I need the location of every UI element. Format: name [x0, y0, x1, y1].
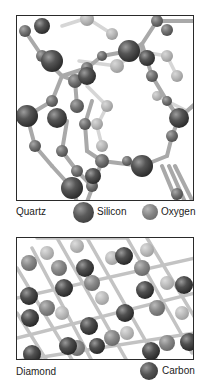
silicon-atom-icon [73, 202, 94, 223]
diamond-structure-panel [16, 237, 194, 360]
quartz-label: Quartz [16, 206, 46, 217]
diamond-label: Diamond [16, 366, 56, 377]
carbon-atom-icon [140, 362, 158, 380]
silicon-legend-label: Silicon [97, 206, 126, 217]
quartz-structure-panel [16, 15, 194, 201]
carbon-legend-label: Carbon [162, 365, 195, 376]
oxygen-legend-label: Oxygen [161, 206, 195, 217]
diamond-lattice-illustration [17, 238, 194, 360]
quartz-lattice-illustration [17, 16, 194, 201]
oxygen-atom-icon [142, 204, 158, 220]
